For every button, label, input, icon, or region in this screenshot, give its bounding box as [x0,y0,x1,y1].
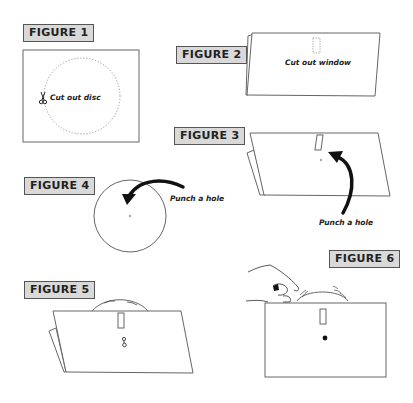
figure-3-caption: Punch a hole [319,218,373,227]
figure-3-drawing [247,133,390,213]
hand-icon [246,265,299,302]
figure-4-caption: Punch a hole [170,194,224,203]
figure-4-drawing [94,180,183,252]
figure-2-caption: Cut out window [285,58,351,67]
figure-6-drawing [246,265,386,377]
figure-5-drawing [49,300,193,373]
figure-1-caption: Cut out disc [50,93,101,102]
